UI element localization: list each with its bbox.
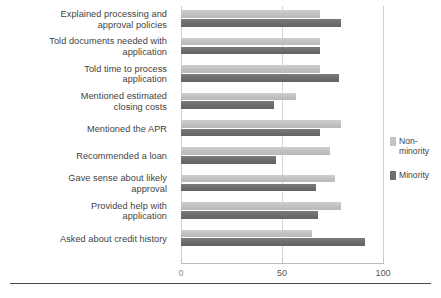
category-label: Provided help with application (0, 201, 176, 222)
figure: Explained processing and approval polici… (0, 0, 441, 298)
legend-label: Non- minority (399, 136, 429, 156)
legend-swatch-icon (390, 171, 396, 180)
legend-label: Minority (399, 170, 429, 180)
chart-legend: Non- minorityMinority (390, 136, 441, 195)
category-label: Told time to process application (0, 64, 176, 85)
legend-item: Minority (390, 170, 441, 180)
x-axis-tick-labels: 0 50 100 (181, 268, 391, 282)
category-label: Mentioned the APR (0, 124, 176, 135)
x-tick-label-50: 50 (277, 268, 287, 278)
axis-ticks (181, 6, 383, 264)
legend-swatch-icon (390, 137, 396, 146)
figure-caption (10, 288, 434, 297)
bar-chart: Explained processing and approval polici… (0, 6, 441, 264)
category-label: Told documents needed with application (0, 36, 176, 57)
legend-item: Non- minority (390, 136, 441, 156)
category-label: Gave sense about likely approval (0, 173, 176, 194)
footer-divider (10, 283, 431, 284)
x-tick-label-0: 0 (178, 268, 183, 278)
category-label: Explained processing and approval polici… (0, 9, 176, 30)
category-label: Asked about credit history (0, 234, 176, 245)
category-label: Mentioned estimated closing costs (0, 91, 176, 112)
category-label: Recommended a loan (0, 151, 176, 162)
x-tick-label-100: 100 (375, 268, 390, 278)
x-axis-line (181, 263, 384, 264)
